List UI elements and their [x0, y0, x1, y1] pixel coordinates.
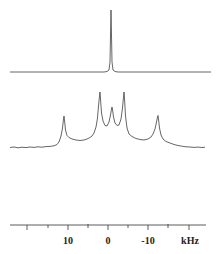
x-axis: 10 0 -10 kHz: [10, 224, 206, 246]
tick-label-10: 10: [63, 235, 73, 246]
bottom-spectrum: [10, 92, 205, 148]
x-axis-unit-label: kHz: [181, 235, 199, 246]
top-spectrum-trace: [10, 10, 211, 72]
tick-label-0: 0: [106, 235, 111, 246]
bottom-spectrum-trace: [10, 92, 205, 148]
tick-label-minus-10: -10: [141, 235, 154, 246]
top-spectrum: [10, 10, 211, 72]
nmr-spectra-figure: 10 0 -10 kHz: [0, 0, 221, 254]
